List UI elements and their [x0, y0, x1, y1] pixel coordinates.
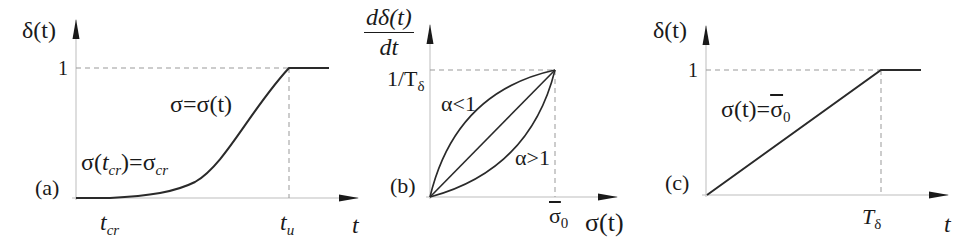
panel-c-x-axis-label: t: [944, 212, 951, 236]
panel-c-ytick-1: 1: [688, 60, 698, 80]
panel-a-curve-label: σ=σ(t): [170, 92, 232, 116]
panel-a-x-axis-label: t: [352, 213, 359, 237]
ytick-sub: δ: [418, 78, 425, 94]
c-xtick-T: T: [862, 204, 874, 229]
panel-a-y-axis-label: δ(t): [22, 18, 56, 42]
panel-c-xtick: Tδ: [862, 206, 881, 232]
c-label-sub: 0: [783, 109, 791, 125]
initial-label-sigma-sub: cr: [156, 162, 169, 178]
initial-label-pre: σ(: [81, 149, 102, 175]
xtick-sub: 0: [561, 215, 569, 231]
panel-b-xtick: σ0: [549, 205, 568, 231]
panel-c-tag: (c): [665, 172, 689, 194]
label-alpha-greater-1: α>1: [515, 147, 550, 169]
y-label-numerator: dδ(t): [364, 4, 414, 33]
tcr-t: t: [100, 209, 107, 235]
c-xtick-sub: δ: [874, 216, 881, 232]
panel-a-ytick-1: 1: [58, 58, 68, 78]
panel-a-tag: (a): [35, 177, 59, 199]
diagram-canvas: [0, 0, 979, 246]
panel-b-tag: (b): [390, 175, 416, 197]
xtick-sigma: σ: [549, 203, 561, 228]
panel-c-curve: [707, 70, 921, 195]
ytick-text: 1/T: [387, 66, 418, 91]
panel-a-xtick-tu: tu: [280, 210, 294, 238]
initial-label-t-sub: cr: [109, 162, 122, 178]
initial-label-t: t: [102, 149, 109, 175]
curve-alpha-equal-1: [430, 70, 555, 197]
tcr-sub: cr: [107, 222, 120, 238]
label-alpha-less-1: α<1: [441, 93, 476, 115]
panel-a-xtick-tcr: tcr: [100, 210, 119, 238]
tu-t: t: [280, 209, 287, 235]
panel-a-y-axis-label-text: δ(t): [22, 17, 56, 43]
panel-a-curve: [76, 68, 329, 198]
panel-c-curve-label: σ(t)=σ0: [721, 97, 791, 125]
panel-c-y-axis-label: δ(t): [653, 18, 687, 42]
panel-b-y-axis-label: dδ(t) dt: [364, 4, 414, 61]
tu-sub: u: [287, 222, 295, 238]
c-label-sigma: σ: [770, 96, 783, 122]
initial-label-mid: )=σ: [121, 149, 155, 175]
panel-a-initial-label: σ(tcr)=σcr: [81, 150, 168, 178]
panel-b-x-axis-label: σ(t): [585, 210, 624, 236]
panel-b-ytick: 1/Tδ: [387, 68, 425, 94]
y-label-denominator: dt: [364, 33, 414, 61]
c-label-pre: σ(t)=: [721, 96, 770, 122]
